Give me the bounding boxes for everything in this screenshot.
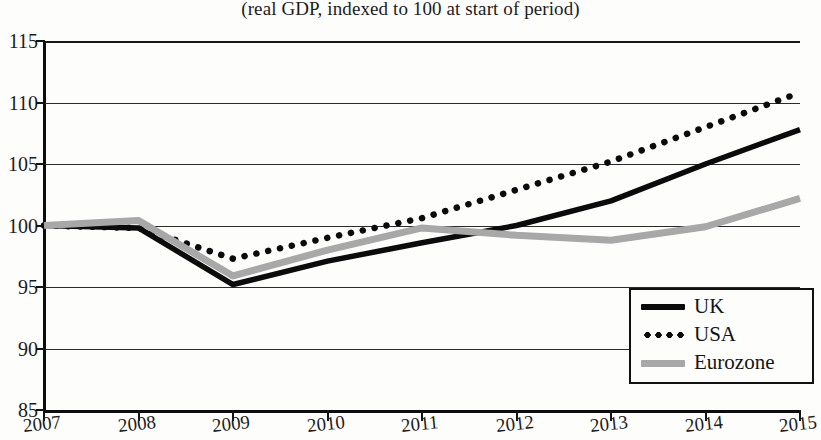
legend-swatch-uk-icon: [641, 297, 685, 315]
chart-root: g (real GDP, indexed to 100 at start of …: [0, 0, 821, 440]
legend-item-usa[interactable]: USA: [641, 321, 736, 347]
series-line-uk: [44, 130, 800, 285]
legend-label-usa: USA: [694, 324, 736, 345]
legend-item-eurozone[interactable]: Eurozone: [641, 349, 774, 375]
legend-swatch-usa-icon: [641, 325, 685, 343]
legend-swatch-eurozone-icon: [641, 353, 685, 371]
legend-label-uk: UK: [694, 296, 724, 317]
legend-label-eurozone: Eurozone: [694, 352, 774, 373]
legend: UK USA Eurozone: [629, 288, 814, 384]
legend-item-uk[interactable]: UK: [641, 293, 724, 319]
